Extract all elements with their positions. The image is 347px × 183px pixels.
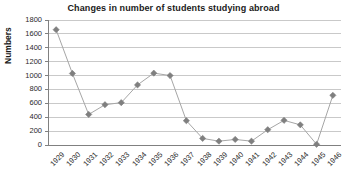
gridlines [48,20,341,145]
data-point-marker [102,102,108,108]
axis-lines [45,20,341,145]
data-point-marker [216,138,222,144]
data-point-marker [167,72,173,78]
data-point-marker [330,92,336,98]
data-point-marker [265,127,271,133]
data-point-marker [281,117,287,123]
data-point-marker [53,27,59,33]
series-line [56,30,333,145]
plot-area [0,0,347,183]
data-point-marker [86,111,92,117]
data-point-marker [232,136,238,142]
data-series-line [56,30,333,145]
data-point-marker [248,138,254,144]
chart-container: Changes in number of students studying a… [0,0,347,183]
